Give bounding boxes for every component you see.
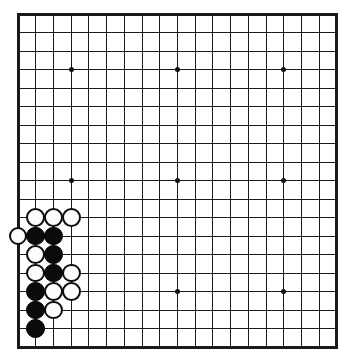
grid-line-vertical <box>319 14 320 347</box>
star-point-icon <box>175 289 180 294</box>
white-stone[interactable] <box>44 208 63 227</box>
grid-line-vertical <box>159 14 160 347</box>
goban-grid[interactable] <box>0 0 353 363</box>
grid-line-vertical <box>248 14 249 347</box>
star-point-icon <box>281 67 286 72</box>
black-stone[interactable] <box>26 301 45 320</box>
white-stone[interactable] <box>26 245 45 264</box>
grid-line-vertical <box>88 14 89 347</box>
go-board-diagram <box>0 0 353 363</box>
grid-line-vertical <box>106 14 107 347</box>
white-stone[interactable] <box>62 208 81 227</box>
grid-line-vertical <box>266 14 267 347</box>
white-stone[interactable] <box>9 227 28 246</box>
star-point-icon <box>175 178 180 183</box>
black-stone[interactable] <box>44 264 63 283</box>
grid-line-vertical <box>142 14 143 347</box>
white-stone[interactable] <box>26 208 45 227</box>
black-stone[interactable] <box>26 319 45 338</box>
board-border-line-vertical <box>17 13 20 348</box>
grid-line-vertical <box>230 14 231 347</box>
black-stone[interactable] <box>44 245 63 264</box>
star-point-icon <box>281 178 286 183</box>
grid-line-vertical <box>124 14 125 347</box>
star-point-icon <box>281 289 286 294</box>
grid-line-vertical <box>301 14 302 347</box>
star-point-icon <box>175 67 180 72</box>
black-stone[interactable] <box>26 282 45 301</box>
white-stone[interactable] <box>26 264 45 283</box>
star-point-icon <box>69 67 74 72</box>
board-border-line-vertical <box>335 13 338 348</box>
black-stone[interactable] <box>44 227 63 246</box>
white-stone[interactable] <box>44 301 63 320</box>
white-stone[interactable] <box>62 282 81 301</box>
grid-line-vertical <box>195 14 196 347</box>
white-stone[interactable] <box>44 282 63 301</box>
white-stone[interactable] <box>62 264 81 283</box>
grid-line-vertical <box>212 14 213 347</box>
black-stone[interactable] <box>26 227 45 246</box>
star-point-icon <box>69 178 74 183</box>
